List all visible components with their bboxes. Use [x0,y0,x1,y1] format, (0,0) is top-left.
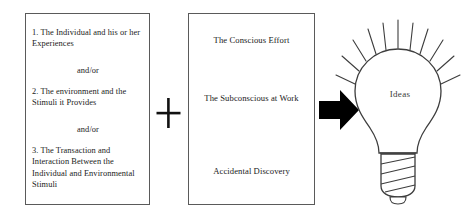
input-sources-box: 1. The Individual and his or her Experie… [25,13,150,205]
creative-process-content: The Conscious Effort The Subconscious at… [189,14,314,204]
lightbulb-icon [330,8,466,213]
bulb-outcome-label: Ideas [357,89,443,99]
diagram-canvas: 1. The Individual and his or her Experie… [0,0,468,219]
input-conjunction-2: and/or [32,124,144,135]
process-item-conscious-effort: The Conscious Effort [197,35,306,47]
input-sources-content: 1. The Individual and his or her Experie… [26,14,149,204]
process-item-accidental-discovery: Accidental Discovery [197,166,306,178]
input-source-item-3: 3. The Transaction and Interaction Betwe… [32,145,144,191]
input-conjunction-1: and/or [32,65,144,76]
input-source-item-1: 1. The Individual and his or her Experie… [32,27,144,50]
creative-process-box: The Conscious Effort The Subconscious at… [188,13,315,205]
plus-operator-icon [155,96,183,130]
input-source-item-2: 2. The environment and the Stimuli it Pr… [32,86,144,109]
process-item-subconscious: The Subconscious at Work [197,93,306,105]
